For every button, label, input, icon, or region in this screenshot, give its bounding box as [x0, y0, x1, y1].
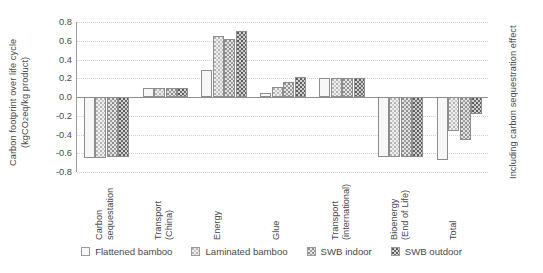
bar-group	[195, 22, 254, 172]
bar[interactable]	[283, 82, 294, 97]
x-tick-label: Carbon sequestation	[94, 176, 116, 240]
x-tick-label: Total	[448, 176, 459, 240]
y-tick-label: -0.8	[38, 167, 72, 177]
x-tick-label: Bioenergy (End of Life)	[389, 176, 411, 240]
bar[interactable]	[84, 97, 95, 158]
legend-label: Flattened bamboo	[95, 246, 172, 257]
bar[interactable]	[295, 77, 306, 97]
bar[interactable]	[378, 97, 389, 157]
legend-item[interactable]: SWB outdoor	[391, 246, 462, 257]
legend-label: Laminated bamboo	[205, 246, 287, 257]
gridline	[77, 172, 488, 173]
bar[interactable]	[236, 31, 247, 97]
y-axis-title-right: Including carbon sequestration effect	[508, 14, 524, 190]
legend-swatch-icon	[81, 247, 90, 256]
bar-group	[371, 22, 430, 172]
x-tick-label: Energy	[212, 176, 223, 240]
bar-group	[430, 22, 489, 172]
y-tick-label: 0.6	[38, 36, 72, 46]
bar[interactable]	[213, 36, 224, 97]
legend-item[interactable]: SWB indoor	[307, 246, 372, 257]
bar[interactable]	[471, 97, 482, 114]
bar-group	[254, 22, 313, 172]
bar[interactable]	[319, 78, 330, 97]
y-axis-title-left: Carbon footprint over life cycle (kgCO2e…	[8, 14, 34, 190]
legend-label: SWB outdoor	[405, 246, 462, 257]
bar[interactable]	[166, 88, 177, 97]
bar[interactable]	[272, 87, 283, 97]
chart-legend: Flattened bambooLaminated bambooSWB indo…	[0, 246, 543, 257]
bar[interactable]	[331, 78, 342, 97]
bar-group	[312, 22, 371, 172]
legend-swatch-icon	[307, 247, 316, 256]
x-axis-category-labels: Carbon sequestationTransport (China)Ener…	[76, 176, 488, 242]
bar-group	[77, 22, 136, 172]
bar[interactable]	[224, 39, 235, 97]
plot-area	[76, 22, 488, 172]
bar[interactable]	[154, 88, 165, 97]
legend-item[interactable]: Laminated bamboo	[191, 246, 287, 257]
legend-swatch-icon	[191, 247, 200, 256]
bar[interactable]	[201, 70, 212, 97]
y-tick-label: -0.2	[38, 111, 72, 121]
y-tick-label: 0.8	[38, 17, 72, 27]
bar[interactable]	[260, 93, 271, 97]
x-tick-label: Transport (China)	[153, 176, 175, 240]
bar[interactable]	[389, 97, 400, 157]
y-tick-label: 0.2	[38, 73, 72, 83]
legend-label: SWB indoor	[321, 246, 372, 257]
bar[interactable]	[354, 78, 365, 97]
legend-swatch-icon	[391, 247, 400, 256]
bar[interactable]	[401, 97, 412, 157]
x-tick-label: Transport (international)	[330, 176, 352, 240]
y-tick-label: -0.6	[38, 148, 72, 158]
bar[interactable]	[95, 97, 106, 158]
bar[interactable]	[412, 97, 423, 157]
legend-item[interactable]: Flattened bamboo	[81, 246, 172, 257]
bar[interactable]	[448, 97, 459, 131]
bar[interactable]	[342, 78, 353, 97]
bar[interactable]	[460, 97, 471, 140]
bar[interactable]	[143, 88, 154, 97]
chart-figure: Carbon footprint over life cycle (kgCO2e…	[0, 0, 543, 273]
y-tick-label: 0.0	[38, 92, 72, 102]
x-tick-label: Glue	[271, 176, 282, 240]
bar[interactable]	[118, 97, 129, 157]
y-axis-tick-labels: 0.80.60.40.20.0-0.2-0.4-0.6-0.8	[34, 22, 72, 172]
bar[interactable]	[177, 88, 188, 97]
y-tick-label: -0.4	[38, 130, 72, 140]
bar[interactable]	[437, 97, 448, 160]
bar[interactable]	[107, 97, 118, 157]
bar-group	[136, 22, 195, 172]
y-tick-label: 0.4	[38, 55, 72, 65]
